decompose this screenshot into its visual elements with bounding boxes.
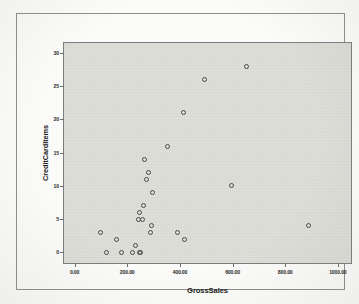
- data-point[interactable]: [138, 250, 143, 255]
- data-point[interactable]: [148, 230, 153, 235]
- x-axis-tick: [127, 263, 128, 267]
- y-axis-tick: [60, 119, 64, 120]
- data-point[interactable]: [141, 203, 146, 208]
- x-axis-tick: [180, 263, 181, 267]
- y-axis-tick-label: 30: [53, 50, 59, 56]
- data-point[interactable]: [133, 243, 138, 248]
- data-point[interactable]: [114, 237, 119, 242]
- data-point[interactable]: [202, 77, 207, 82]
- data-point[interactable]: [146, 170, 151, 175]
- data-point[interactable]: [150, 190, 155, 195]
- data-point[interactable]: [137, 210, 142, 215]
- y-axis-tick: [60, 153, 64, 154]
- data-point[interactable]: [119, 250, 124, 255]
- data-point[interactable]: [175, 230, 180, 235]
- data-point[interactable]: [165, 144, 170, 149]
- x-axis-title: GrossSales: [63, 286, 352, 295]
- y-axis-tick-label: 10: [53, 183, 59, 189]
- data-point[interactable]: [104, 250, 109, 255]
- data-point[interactable]: [130, 250, 135, 255]
- data-point[interactable]: [140, 217, 145, 222]
- x-axis-tick-label: 1000.00: [329, 269, 346, 275]
- data-point[interactable]: [142, 157, 147, 162]
- y-axis-title: CreditCardItems: [39, 42, 51, 264]
- data-point[interactable]: [306, 223, 311, 228]
- data-point[interactable]: [244, 64, 249, 69]
- scanned-page: 0510152025300.00200.00400.00600.00800.00…: [0, 0, 359, 304]
- data-point[interactable]: [181, 110, 186, 115]
- y-axis-tick-label: 0: [56, 249, 59, 255]
- data-point[interactable]: [229, 183, 234, 188]
- scatter-plot-area[interactable]: 0510152025300.00200.00400.00600.00800.00…: [63, 42, 352, 264]
- y-axis-tick: [60, 86, 64, 87]
- x-axis-tick-label: 0.00: [70, 269, 79, 275]
- x-axis-tick: [285, 263, 286, 267]
- y-axis-tick-label: 20: [53, 116, 59, 122]
- y-axis-tick: [60, 219, 64, 220]
- x-axis-tick: [338, 263, 339, 267]
- data-point[interactable]: [149, 223, 154, 228]
- x-axis-tick-label: 200.00: [120, 269, 135, 275]
- y-axis-tick: [60, 53, 64, 54]
- x-axis-tick: [75, 263, 76, 267]
- y-axis-tick-label: 5: [56, 216, 59, 222]
- y-axis-tick: [60, 252, 64, 253]
- x-axis-tick-label: 800.00: [278, 269, 293, 275]
- x-axis-tick: [233, 263, 234, 267]
- data-point[interactable]: [98, 230, 103, 235]
- data-point[interactable]: [144, 177, 149, 182]
- data-point[interactable]: [182, 237, 187, 242]
- x-axis-tick-label: 600.00: [225, 269, 240, 275]
- y-axis-tick-label: 25: [53, 83, 59, 89]
- x-axis-tick-label: 400.00: [173, 269, 188, 275]
- y-axis-tick: [60, 186, 64, 187]
- y-axis-tick-label: 15: [53, 150, 59, 156]
- chart-frame: 0510152025300.00200.00400.00600.00800.00…: [16, 13, 345, 290]
